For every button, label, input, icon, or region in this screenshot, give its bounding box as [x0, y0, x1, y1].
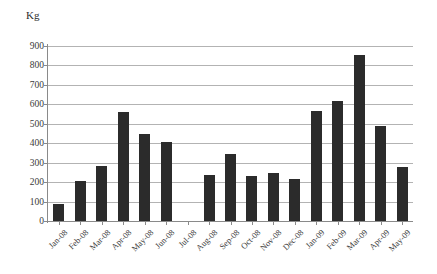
y-axis-tick-label: 400: [4, 138, 44, 148]
bar[interactable]: [75, 181, 86, 221]
y-axis-tick-label: 900: [4, 41, 44, 51]
bar[interactable]: [246, 176, 257, 221]
x-axis-tick-mark: [338, 221, 339, 225]
bar[interactable]: [311, 111, 322, 221]
bar[interactable]: [161, 142, 172, 221]
x-axis-tick-mark: [295, 221, 296, 225]
bar[interactable]: [354, 55, 365, 221]
x-axis-tick-mark: [252, 221, 253, 225]
plot-area: [48, 46, 413, 221]
y-axis-tick-label: 600: [4, 99, 44, 109]
bar-chart: Kg 0100200300400500600700800900 Jan-08Fe…: [0, 0, 437, 274]
bar[interactable]: [225, 154, 236, 221]
y-axis-tick-label: 800: [4, 60, 44, 70]
bar[interactable]: [118, 112, 129, 221]
y-axis-tick-labels: 0100200300400500600700800900: [0, 0, 44, 274]
x-axis-tick-mark: [188, 221, 189, 225]
x-axis-tick-mark: [145, 221, 146, 225]
x-axis-tick-mark: [231, 221, 232, 225]
bar[interactable]: [96, 166, 107, 221]
x-axis-tick-mark: [59, 221, 60, 225]
bar[interactable]: [204, 175, 215, 221]
x-axis-tick-mark: [209, 221, 210, 225]
y-axis-tick-label: 100: [4, 197, 44, 207]
bar[interactable]: [375, 126, 386, 221]
x-axis-tick-mark: [80, 221, 81, 225]
y-axis-tick-label: 500: [4, 119, 44, 129]
gridline: [48, 46, 413, 47]
x-axis-tick-mark: [381, 221, 382, 225]
bar[interactable]: [53, 204, 64, 222]
y-axis-tick-label: 0: [4, 216, 44, 226]
bar[interactable]: [139, 134, 150, 222]
y-axis-tick-label: 200: [4, 177, 44, 187]
x-axis-tick-mark: [316, 221, 317, 225]
x-axis-tick-mark: [273, 221, 274, 225]
x-axis-tick-mark: [123, 221, 124, 225]
x-axis-tick-mark: [402, 221, 403, 225]
bar[interactable]: [397, 167, 408, 221]
x-axis-tick-mark: [166, 221, 167, 225]
bar[interactable]: [268, 173, 279, 221]
y-axis-tick-label: 700: [4, 80, 44, 90]
x-axis-tick-mark: [102, 221, 103, 225]
y-axis-tick-label: 300: [4, 158, 44, 168]
bar[interactable]: [289, 179, 300, 221]
x-axis-tick-mark: [359, 221, 360, 225]
bar[interactable]: [332, 101, 343, 221]
